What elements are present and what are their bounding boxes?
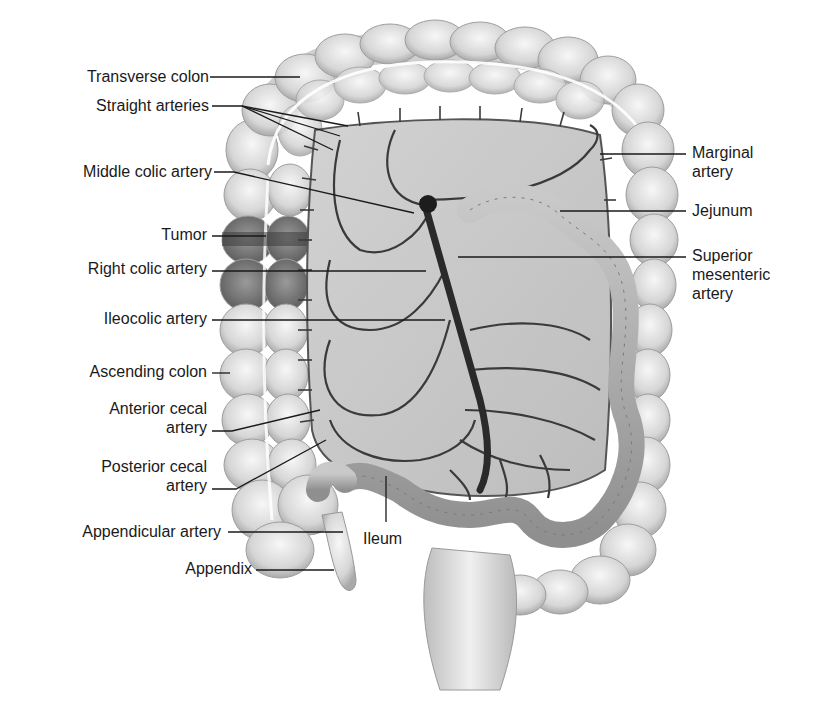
label-superior-mesenteric-artery: Superior mesenteric artery bbox=[692, 246, 770, 303]
label-ileocolic-artery: Ileocolic artery bbox=[104, 309, 207, 328]
label-right-colic-artery: Right colic artery bbox=[88, 259, 207, 278]
rectum-shape bbox=[424, 548, 517, 690]
label-straight-arteries: Straight arteries bbox=[96, 96, 209, 115]
label-appendix: Appendix bbox=[185, 559, 252, 578]
label-jejunum: Jejunum bbox=[692, 201, 752, 220]
label-tumor: Tumor bbox=[161, 225, 207, 244]
label-marginal-artery: Marginal artery bbox=[692, 143, 753, 181]
label-transverse-colon: Transverse colon bbox=[87, 67, 209, 86]
label-posterior-cecal-artery: Posterior cecal artery bbox=[101, 457, 207, 495]
sma-origin bbox=[419, 195, 437, 213]
label-appendicular-artery: Appendicular artery bbox=[82, 522, 221, 541]
label-anterior-cecal-artery: Anterior cecal artery bbox=[109, 399, 207, 437]
label-ascending-colon: Ascending colon bbox=[90, 362, 207, 381]
appendix-shape bbox=[322, 512, 356, 590]
label-middle-colic-artery: Middle colic artery bbox=[83, 162, 212, 181]
mesentery-shape bbox=[307, 119, 611, 496]
label-ileum: Ileum bbox=[363, 529, 402, 548]
tumor-shape bbox=[222, 232, 310, 246]
anatomy-diagram: Transverse colon Straight arteries Middl… bbox=[0, 0, 825, 705]
